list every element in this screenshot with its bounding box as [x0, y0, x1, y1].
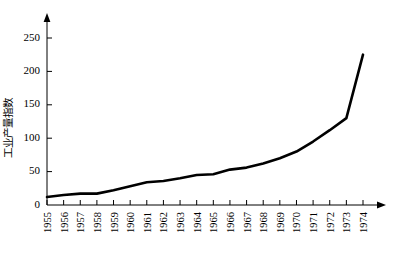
y-tick-label: 0: [35, 198, 41, 210]
x-tick-label: 1956: [59, 212, 70, 233]
y-tick-label: 250: [24, 31, 41, 43]
y-tick-label: 200: [24, 64, 41, 76]
x-tick-label: 1968: [258, 212, 269, 233]
x-tick-label: 1973: [341, 212, 352, 233]
y-tick-label: 50: [29, 164, 41, 176]
x-tick-label: 1969: [275, 212, 286, 233]
chart-plot-area: 050100150200250 195519561957195819591960…: [0, 0, 395, 256]
data-line-series: [47, 55, 363, 197]
x-tick-label: 1955: [42, 212, 53, 233]
y-axis-title: 工业产量指数: [2, 97, 14, 158]
y-axis: 050100150200250: [24, 13, 53, 210]
x-tick-label: 1957: [75, 212, 86, 233]
y-tick-label: 150: [24, 97, 41, 109]
x-tick-label: 1974: [358, 211, 369, 233]
x-tick-label: 1960: [125, 212, 136, 233]
x-tick-label: 1972: [325, 212, 336, 233]
x-axis: 1955195619571958195919601961196219631964…: [42, 200, 386, 233]
y-axis-arrow: [44, 13, 51, 22]
y-axis-title-text: 工业产量指数: [2, 97, 14, 158]
industrial-output-index-chart: 050100150200250 195519561957195819591960…: [0, 0, 395, 256]
x-tick-label: 1963: [175, 212, 186, 233]
x-tick-label: 1961: [142, 212, 153, 233]
x-tick-label: 1970: [291, 212, 302, 233]
x-axis-arrow: [377, 202, 386, 209]
y-tick-label: 100: [24, 131, 41, 143]
x-tick-label: 1967: [242, 212, 253, 233]
x-tick-label: 1962: [158, 212, 169, 233]
data-series-group: [47, 55, 363, 197]
x-tick-label: 1964: [192, 211, 203, 233]
x-tick-label: 1958: [92, 212, 103, 233]
x-tick-label: 1965: [208, 212, 219, 233]
x-tick-label: 1966: [225, 212, 236, 233]
x-tick-label: 1971: [308, 212, 319, 233]
x-tick-label: 1959: [109, 212, 120, 233]
